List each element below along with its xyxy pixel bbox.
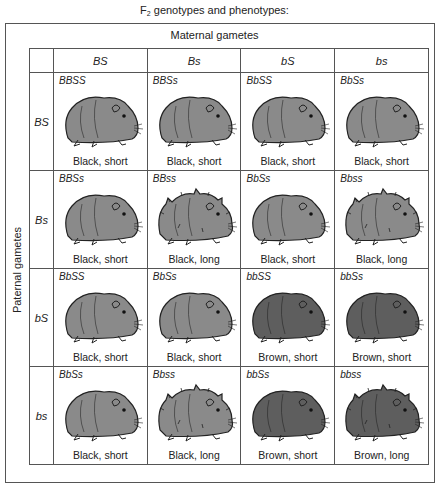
guinea-pig-illustration-icon [152, 184, 238, 250]
punnett-cell: BBSsBlack, short [53, 171, 147, 269]
title-suffix: genotypes and phenotypes: [151, 4, 289, 16]
paternal-gamete-header: bS [30, 269, 54, 367]
guinea-pig-illustration-icon [339, 86, 425, 152]
guinea-pig-illustration-icon [339, 282, 425, 348]
maternal-gamete-header: BS [53, 49, 147, 73]
guinea-pig-illustration-icon [339, 380, 425, 446]
punnett-cell: bbSSBrown, short [241, 269, 335, 367]
genotype-label: BBSs [59, 173, 84, 184]
header-row: BS Bs bS bs [30, 49, 429, 73]
genotype-label: BBSS [59, 75, 86, 86]
phenotype-label: Black, short [54, 449, 147, 461]
paternal-gamete-header: BS [30, 73, 54, 171]
phenotype-label: Black, short [148, 351, 241, 363]
corner-cell [30, 49, 54, 73]
figure-title: F2 genotypes and phenotypes: [0, 4, 429, 17]
punnett-cell: BbssBlack, long [147, 367, 241, 465]
punnett-cell: bbSsBrown, short [241, 367, 335, 465]
guinea-pig-illustration-icon [58, 86, 144, 152]
guinea-pig-illustration-icon [58, 184, 144, 250]
guinea-pig-illustration-icon [152, 282, 238, 348]
guinea-pig-illustration-icon [245, 184, 331, 250]
genotype-label: Bbss [153, 369, 175, 380]
punnett-cell: bbSsBrown, short [335, 269, 429, 367]
phenotype-label: Black, short [54, 253, 147, 265]
phenotype-label: Black, short [54, 351, 147, 363]
genotype-label: bbSS [246, 271, 270, 282]
paternal-gamete-header: bs [30, 367, 54, 465]
maternal-gamete-header: bS [241, 49, 335, 73]
paternal-gametes-label: Paternal gametes [11, 227, 23, 313]
paternal-gamete-header: Bs [30, 171, 54, 269]
grid-row: bsBbSsBlack, shortBbssBlack, longbbSsBro… [30, 367, 429, 465]
genotype-label: BbSS [246, 75, 272, 86]
phenotype-label: Black, long [148, 449, 241, 461]
genotype-label: BbSs [246, 173, 270, 184]
punnett-cell: BbSsBlack, short [53, 367, 147, 465]
genotype-label: bbss [340, 369, 361, 380]
genotype-label: BbSs [340, 75, 364, 86]
punnett-cell: BbSSBlack, short [241, 73, 335, 171]
phenotype-label: Black, short [148, 155, 241, 167]
grid-row: BsBBSsBlack, shortBBssBlack, longBbSsBla… [30, 171, 429, 269]
phenotype-label: Black, short [54, 155, 147, 167]
guinea-pig-illustration-icon [245, 86, 331, 152]
genotype-label: BbSs [59, 369, 83, 380]
punnett-cell: BbSSBlack, short [53, 269, 147, 367]
punnett-cell: BbSsBlack, short [147, 269, 241, 367]
maternal-gametes-label: Maternal gametes [0, 29, 429, 41]
phenotype-label: Black, short [241, 155, 334, 167]
punnett-cell: BBSSBlack, short [53, 73, 147, 171]
phenotype-label: Brown, long [335, 449, 428, 461]
guinea-pig-illustration-icon [58, 380, 144, 446]
genotype-label: BbSS [59, 271, 85, 282]
phenotype-label: Black, long [148, 253, 241, 265]
punnett-cell: BBSsBlack, short [147, 73, 241, 171]
genotype-label: BbSs [153, 271, 177, 282]
guinea-pig-illustration-icon [58, 282, 144, 348]
phenotype-label: Brown, short [241, 449, 334, 461]
grid-row: bSBbSSBlack, shortBbSsBlack, shortbbSSBr… [30, 269, 429, 367]
phenotype-label: Black, long [335, 253, 428, 265]
maternal-gamete-header: Bs [147, 49, 241, 73]
punnett-square: BS Bs bS bs BSBBSSBlack, shortBBSsBlack,… [29, 48, 429, 465]
genotype-label: BBSs [153, 75, 178, 86]
grid-row: BSBBSSBlack, shortBBSsBlack, shortBbSSBl… [30, 73, 429, 171]
punnett-cell: BbSsBlack, short [335, 73, 429, 171]
punnett-cell: bbssBrown, long [335, 367, 429, 465]
punnett-cell: BbSsBlack, short [241, 171, 335, 269]
title-prefix: F [140, 4, 147, 16]
phenotype-label: Brown, short [241, 351, 334, 363]
punnett-cell: BBssBlack, long [147, 171, 241, 269]
phenotype-label: Black, short [241, 253, 334, 265]
punnett-cell: BbssBlack, long [335, 171, 429, 269]
genotype-label: Bbss [340, 173, 362, 184]
guinea-pig-illustration-icon [245, 282, 331, 348]
genotype-label: BBss [153, 173, 176, 184]
phenotype-label: Brown, short [335, 351, 428, 363]
phenotype-label: Black, short [335, 155, 428, 167]
guinea-pig-illustration-icon [152, 380, 238, 446]
genotype-label: bbSs [246, 369, 269, 380]
guinea-pig-illustration-icon [339, 184, 425, 250]
guinea-pig-illustration-icon [152, 86, 238, 152]
guinea-pig-illustration-icon [245, 380, 331, 446]
maternal-gamete-header: bs [335, 49, 429, 73]
genotype-label: bbSs [340, 271, 363, 282]
